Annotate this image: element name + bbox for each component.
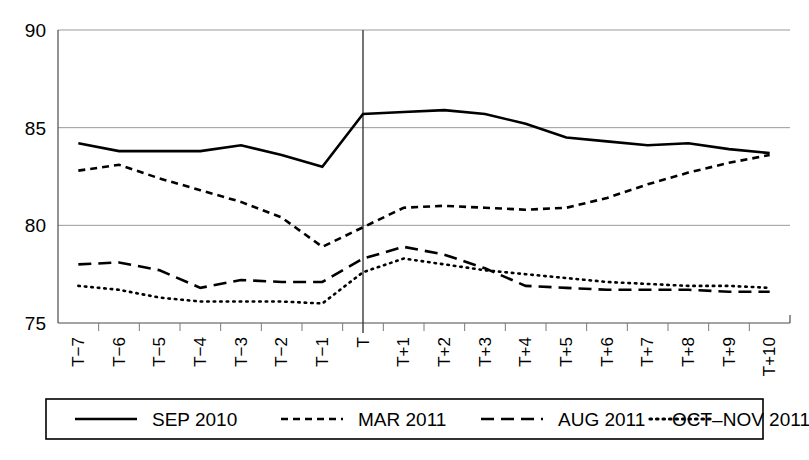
series-line-aug-2011 <box>78 247 769 292</box>
axis-frame <box>58 30 790 323</box>
x-tick-label: T+7 <box>638 337 657 367</box>
x-tick-label: T+9 <box>720 337 739 367</box>
legend-item-sep-2010: SEP 2010 <box>75 409 237 430</box>
x-tick-label: T−1 <box>313 337 332 367</box>
legend-label: MAR 2011 <box>358 409 446 430</box>
legend-item-oct-nov-2011: OCT–NOV 2011 <box>650 409 809 430</box>
x-tick-label: T+6 <box>598 337 617 367</box>
x-tick-label: T−3 <box>232 337 251 367</box>
legend-label: AUG 2011 <box>558 409 645 430</box>
x-tick-label: T−5 <box>150 337 169 367</box>
y-tick-label: 90 <box>25 20 46 41</box>
legend-item-mar-2011: MAR 2011 <box>281 409 446 430</box>
x-tick-label: T+2 <box>435 337 454 367</box>
y-tick-label: 75 <box>25 313 46 334</box>
legend-label: OCT–NOV 2011 <box>672 409 809 430</box>
x-axis-tick-labels: T−7T−6T−5T−4T−3T−2T−1TT+1T+2T+3T+4T+5T+6… <box>69 337 779 376</box>
series-line-mar-2011 <box>78 155 769 247</box>
y-axis-tick-labels: 75808590 <box>25 20 46 334</box>
x-tick-label: T+3 <box>476 337 495 367</box>
series-lines <box>78 110 769 303</box>
x-tick-label: T+1 <box>394 337 413 367</box>
series-line-sep-2010 <box>78 110 769 167</box>
x-tick-label: T+10 <box>760 337 779 376</box>
x-tick-label: T−6 <box>110 337 129 367</box>
x-axis-tick-marks <box>99 323 750 331</box>
chart-legend: SEP 2010MAR 2011AUG 2011OCT–NOV 2011 <box>46 399 809 439</box>
x-tick-label: T <box>354 337 373 347</box>
line-chart: 75808590 T−7T−6T−5T−4T−3T−2T−1TT+1T+2T+3… <box>0 0 809 460</box>
y-tick-label: 85 <box>25 118 46 139</box>
y-tick-label: 80 <box>25 215 46 236</box>
x-tick-label: T−2 <box>272 337 291 367</box>
x-tick-label: T+4 <box>516 337 535 367</box>
chart-figure: 75808590 T−7T−6T−5T−4T−3T−2T−1TT+1T+2T+3… <box>0 0 809 460</box>
y-gridlines <box>58 30 790 225</box>
x-tick-label: T−4 <box>191 337 210 367</box>
x-tick-label: T+8 <box>679 337 698 367</box>
legend-item-aug-2011: AUG 2011 <box>481 409 645 430</box>
x-tick-label: T−7 <box>69 337 88 367</box>
x-tick-label: T+5 <box>557 337 576 367</box>
legend-label: SEP 2010 <box>152 409 237 430</box>
